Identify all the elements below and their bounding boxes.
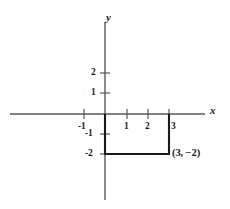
y-tick-label-1: 1 (91, 88, 96, 98)
x-tick-label-1: 1 (124, 122, 129, 132)
x-axis-label: x (210, 105, 216, 116)
y-tick-label-2: 2 (91, 68, 96, 78)
x-tick-label-2: 2 (145, 122, 150, 132)
x-tick-label-3: 3 (171, 122, 176, 132)
y-tick-label--2: -2 (85, 149, 93, 159)
graph-canvas (0, 0, 230, 209)
coordinate-plane-figure: y x -1 1 2 3 2 1 -1 -2 (3, −2) (0, 0, 230, 209)
step-function-curve (105, 114, 169, 154)
y-axis-label: y (106, 12, 111, 23)
point-annotation-3-minus2: (3, −2) (172, 148, 200, 159)
y-tick-label--1: -1 (85, 129, 93, 139)
